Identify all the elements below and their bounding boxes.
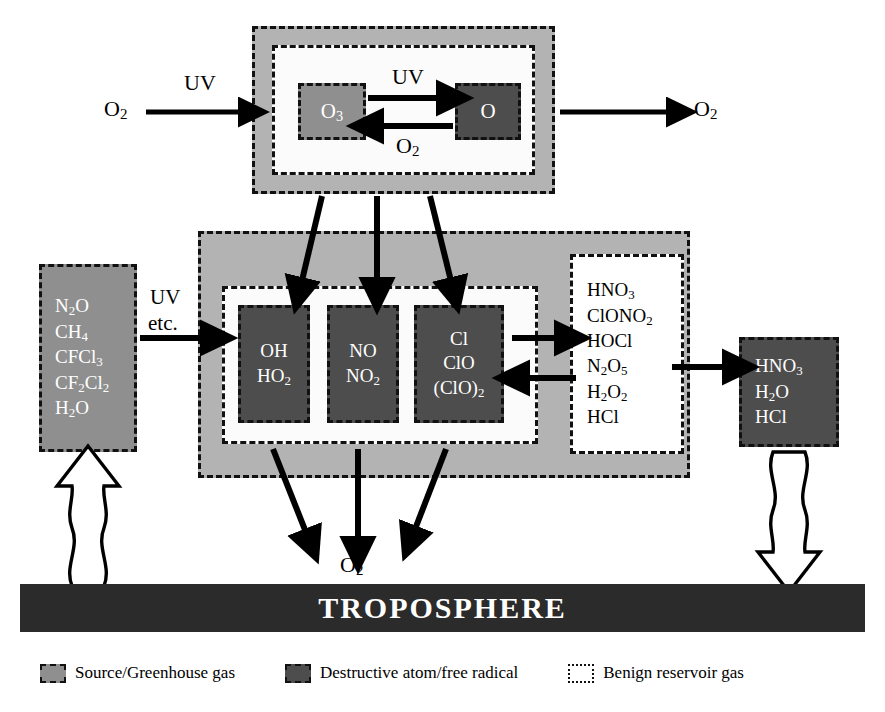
legend-swatch-radical-icon	[285, 664, 311, 683]
clox-species-2: ClO	[443, 351, 475, 376]
hox-species-2: HO2	[257, 364, 291, 390]
clox-radical-box[interactable]: Cl ClO (ClO)2	[414, 305, 504, 423]
atomic-oxygen-box[interactable]: O	[455, 83, 521, 140]
uv-photolysis-label: UV	[392, 64, 424, 90]
nox-radical-box[interactable]: NO NO2	[327, 305, 399, 423]
legend-swatch-reservoir-icon	[568, 664, 594, 683]
reservoir-gas-box[interactable]: HNO3 ClONO2 HOCl N2O5 H2O2 HCl	[570, 254, 684, 454]
hox-radical-box[interactable]: OH HO2	[238, 305, 310, 423]
reservoir-species-2: ClONO2	[587, 304, 653, 330]
washout-gas-box[interactable]: HNO3 H2O HCl	[739, 337, 839, 447]
tropospheric-washout-arrow	[758, 452, 820, 592]
source-gas-box[interactable]: N2O CH4 CFCl3 CF2Cl2 H2O	[39, 264, 137, 452]
reservoir-species-3: HOCl	[587, 329, 632, 354]
source-species-2: CH4	[55, 320, 88, 346]
troposphere-bar: TROPOSPHERE	[20, 584, 865, 632]
reservoir-species-6: HCl	[587, 405, 619, 430]
legend-label-reservoir: Benign reservoir gas	[603, 663, 744, 683]
legend-item-reservoir: Benign reservoir gas	[568, 663, 744, 683]
outflow-oxygen-label: O2	[340, 552, 363, 579]
inflow-uv-label: UV	[184, 70, 216, 96]
source-driver-label-line2: etc.	[148, 311, 178, 336]
ozone-box[interactable]: O3	[298, 83, 366, 140]
washout-species-2: H2O	[755, 380, 789, 406]
atomic-oxygen-species: O	[480, 98, 495, 125]
ozone-species: O3	[321, 98, 343, 126]
source-driver-label-line1: UV	[150, 285, 180, 310]
nox-species-2: NO2	[346, 364, 380, 390]
legend: Source/Greenhouse gas Destructive atom/f…	[0, 663, 885, 683]
nox-species-1: NO	[349, 339, 376, 364]
legend-item-radical: Destructive atom/free radical	[285, 663, 518, 683]
washout-species-1: HNO3	[755, 354, 803, 380]
source-species-4: CF2Cl2	[55, 371, 109, 397]
o2-recombination-label: O2	[396, 133, 419, 160]
source-species-1: N2O	[55, 294, 89, 320]
legend-label-radical: Destructive atom/free radical	[320, 663, 518, 683]
reservoir-species-1: HNO3	[587, 278, 635, 304]
hox-species-1: OH	[260, 339, 287, 364]
legend-item-source: Source/Greenhouse gas	[40, 663, 235, 683]
source-species-3: CFCl3	[55, 345, 103, 371]
reservoir-species-5: H2O2	[587, 380, 627, 406]
clox-species-1: Cl	[450, 327, 468, 352]
clox-species-3: (ClO)2	[434, 376, 485, 402]
outflow-o2-label: O2	[694, 96, 717, 123]
tropospheric-emission-arrow	[57, 446, 119, 586]
legend-label-source: Source/Greenhouse gas	[75, 663, 235, 683]
troposphere-label: TROPOSPHERE	[318, 591, 567, 625]
reservoir-species-4: N2O5	[587, 354, 627, 380]
source-species-5: H2O	[55, 396, 89, 422]
inflow-o2-label: O2	[104, 96, 127, 123]
legend-swatch-source-icon	[40, 664, 66, 683]
washout-species-3: HCl	[755, 405, 787, 430]
